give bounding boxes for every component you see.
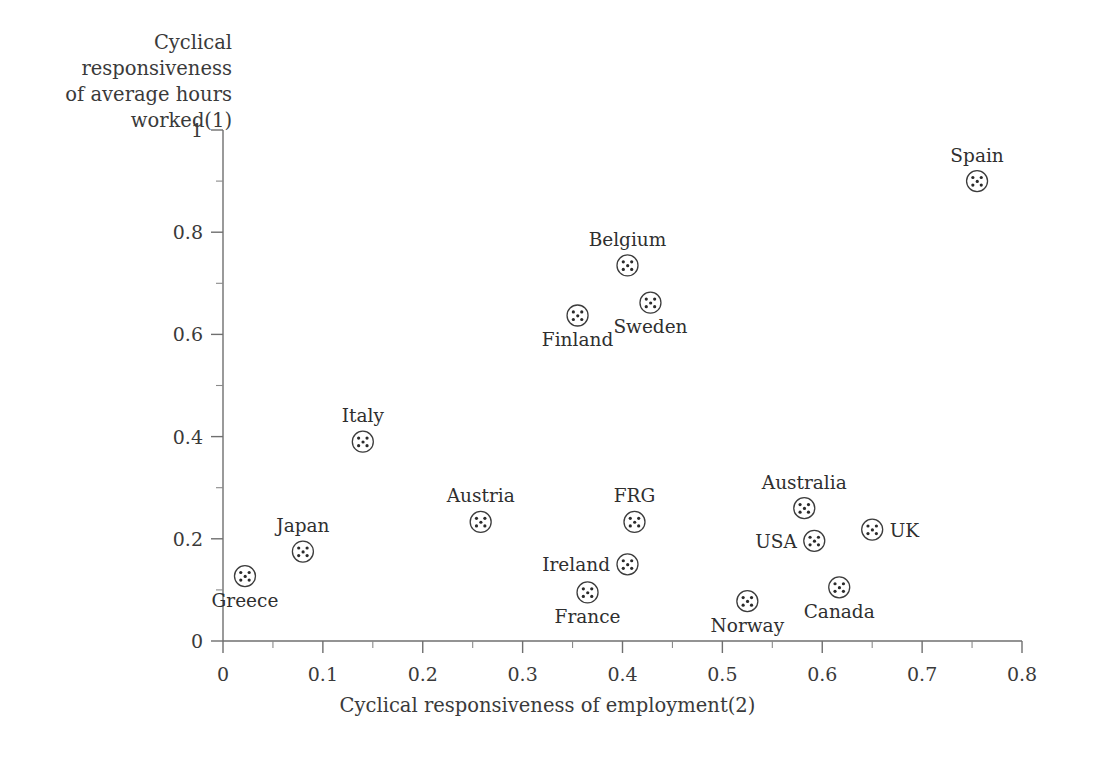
data-point-marker-dot [622, 268, 625, 271]
data-point-marker-dot [590, 595, 593, 598]
data-point [577, 582, 598, 603]
data-point-marker-dot [483, 517, 486, 520]
data-point-label: Italy [342, 405, 385, 426]
data-point [862, 519, 883, 540]
data-point-marker-dot [580, 310, 583, 313]
data-point-label: Japan [274, 515, 329, 536]
data-point-marker-dot [239, 579, 242, 582]
data-point-marker-dot [622, 559, 625, 562]
x-tick-label: 0.2 [408, 663, 438, 685]
data-point-marker-dot [357, 437, 360, 440]
y-tick-label: 0.4 [173, 426, 203, 448]
data-point [617, 554, 638, 575]
x-tick-label: 0 [217, 663, 229, 685]
data-point-marker-dot [630, 559, 633, 562]
data-point-marker-dot [971, 184, 974, 187]
tick-labels-layer: 00.10.20.30.40.50.60.70.800.20.40.60.81 [173, 119, 1037, 685]
data-point-marker-dot [875, 524, 878, 527]
data-point-marker-dot [239, 571, 242, 574]
x-tick-label: 0.3 [508, 663, 538, 685]
data-point-label: Greece [212, 590, 279, 611]
data-point-marker-dot [807, 511, 810, 514]
data-point-marker-dot [297, 546, 300, 549]
data-point-marker-dot [244, 575, 247, 578]
data-point [352, 431, 373, 452]
data-point-marker-dot [302, 550, 305, 553]
data-point-marker-dot [649, 301, 652, 304]
data-point-marker-dot [626, 264, 629, 267]
data-point-marker-dot [580, 318, 583, 321]
x-tick-label: 0.4 [607, 663, 637, 685]
data-point-marker-dot [637, 524, 640, 527]
data-point-label: Canada [804, 601, 875, 622]
data-point-marker-dot [357, 444, 360, 447]
data-point-marker-dot [866, 524, 869, 527]
data-point [829, 577, 850, 598]
data-point-marker-dot [798, 511, 801, 514]
data-point-marker-dot [582, 595, 585, 598]
data-point [470, 511, 491, 532]
data-point-marker-dot [645, 298, 648, 301]
data-point-marker-dot [365, 444, 368, 447]
data-point-marker-dot [750, 604, 753, 607]
x-tick-label: 0.6 [807, 663, 837, 685]
data-point-marker-dot [365, 437, 368, 440]
data-point-marker-dot [306, 554, 309, 557]
data-point-marker-dot [248, 571, 251, 574]
data-point-marker-dot [817, 543, 820, 546]
data-point-label: FRG [614, 485, 656, 506]
data-point-label: Sweden [613, 316, 687, 337]
data-point-marker-dot [866, 532, 869, 535]
data-point-marker-dot [808, 536, 811, 539]
data-point-label: Finland [542, 329, 614, 350]
data-point-marker-dot [630, 567, 633, 570]
data-point-marker-dot [803, 507, 806, 510]
data-point-marker-dot [653, 305, 656, 308]
data-point [804, 530, 825, 551]
data-point [624, 511, 645, 532]
data-point-marker-dot [742, 604, 745, 607]
data-point-marker-dot [590, 587, 593, 590]
data-point-marker-dot [871, 528, 874, 531]
data-point-marker-dot [842, 590, 845, 593]
x-axis-title: Cyclical responsiveness of employment(2) [0, 694, 1095, 717]
data-point-marker-dot [630, 268, 633, 271]
data-point [967, 171, 988, 192]
x-tick-label: 0.1 [308, 663, 338, 685]
y-tick-label: 0 [191, 630, 203, 652]
y-tick-label: 0.6 [173, 323, 203, 345]
data-point-marker-dot [483, 524, 486, 527]
data-point [640, 292, 661, 313]
data-point [234, 566, 255, 587]
data-point-label: Australia [761, 472, 847, 493]
data-point-marker-dot [572, 318, 575, 321]
ticks-layer [211, 130, 1022, 653]
data-point-marker-dot [576, 314, 579, 317]
data-point-marker-dot [742, 596, 745, 599]
data-point-label: Spain [950, 145, 1003, 166]
data-point-label: Ireland [542, 554, 610, 575]
data-point-marker-dot [475, 517, 478, 520]
data-point-marker-dot [817, 536, 820, 539]
data-point-marker-dot [971, 176, 974, 179]
data-point-marker-dot [653, 298, 656, 301]
scatter-plot-figure: Cyclical responsiveness of average hours… [0, 0, 1095, 767]
data-point-marker-dot [813, 540, 816, 543]
data-point-label: France [555, 606, 621, 627]
data-point-marker-dot [586, 591, 589, 594]
data-point [292, 541, 313, 562]
data-point-marker-dot [629, 517, 632, 520]
data-point-label: UK [890, 520, 921, 541]
data-point [794, 498, 815, 519]
x-tick-label: 0.7 [907, 663, 937, 685]
data-point-marker-dot [833, 582, 836, 585]
y-tick-label: 0.2 [173, 528, 203, 550]
data-point-marker-dot [306, 546, 309, 549]
x-tick-label: 0.5 [707, 663, 737, 685]
data-point-marker-dot [248, 579, 251, 582]
data-point-label: Austria [446, 485, 515, 506]
data-point-marker-dot [622, 567, 625, 570]
data-point-marker-dot [297, 554, 300, 557]
data-point-marker-dot [572, 310, 575, 313]
data-point-marker-dot [633, 521, 636, 524]
